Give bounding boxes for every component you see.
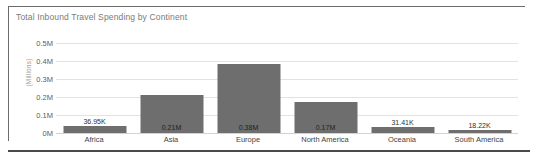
chart-frame: Total Inbound Travel Spending by Contine… [8,6,525,141]
category-label-south-america: South America [455,135,504,144]
category-label-africa: Africa [84,135,103,144]
bar-slot: 0.17M [287,43,364,133]
y-tick-label: 0.4M [13,57,53,66]
bar-europe[interactable] [217,64,280,133]
y-tick-label: 0.1M [13,111,53,120]
bar-value-north-america: 0.17M [316,124,335,131]
y-axis-tick-labels: 0.5M 0.4M 0.3M 0.2M 0.1M 0M [9,43,53,133]
bar-slot: 36.95K [56,43,133,133]
category-label-asia: Asia [164,135,179,144]
bottom-divider [8,150,530,152]
bar-value-africa: 36.95K [83,118,105,125]
bar-slot: 0.38M [210,43,287,133]
bar-slot: 18.22K [441,43,518,133]
bar-value-south-america: 18.22K [468,122,490,129]
bar-africa[interactable] [63,126,126,133]
y-tick-label: 0.5M [13,39,53,48]
category-label-europe: Europe [236,135,260,144]
bar-value-oceania: 31.41K [391,119,413,126]
x-axis-category-labels: Africa Asia Europe North America Oceania… [56,135,518,149]
bar-slot: 31.41K [364,43,441,133]
bar-south-america[interactable] [448,130,511,133]
category-label-oceania: Oceania [388,135,416,144]
chart-title: Total Inbound Travel Spending by Contine… [16,12,187,22]
y-tick-label: 0M [13,129,53,138]
bar-value-asia: 0.21M [162,124,181,131]
category-label-north-america: North America [301,135,349,144]
plot-area: 36.95K 0.21M 0.38M 0.17M 31.41K 18.22K [56,43,518,133]
axis-baseline [56,133,518,134]
bar-value-europe: 0.38M [239,124,258,131]
bar-slot: 0.21M [133,43,210,133]
bar-oceania[interactable] [371,127,434,133]
y-tick-label: 0.3M [13,75,53,84]
y-tick-label: 0.2M [13,93,53,102]
